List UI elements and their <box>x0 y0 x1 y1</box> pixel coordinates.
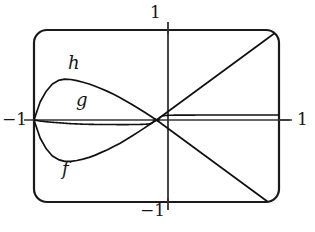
curve-label-h: h <box>68 52 80 73</box>
curve-label-g: g <box>76 89 88 110</box>
y-axis-max-label: 1 <box>150 2 161 22</box>
x-axis-max-label: 1 <box>297 109 308 129</box>
curve-label-f: f <box>62 158 69 179</box>
x-axis-min-label: −1 <box>2 109 27 129</box>
figure-container: 1 −1 −1 1 h g f <box>0 0 315 232</box>
y-axis-min-label: −1 <box>140 200 165 220</box>
plot-canvas <box>0 0 315 232</box>
